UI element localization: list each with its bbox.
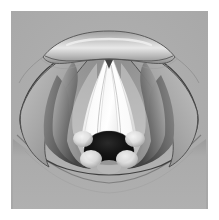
laryngoscopic-illustration-panel	[11, 11, 208, 209]
interarytenoid-notch	[97, 160, 121, 174]
cuneiform-tubercle-right	[125, 131, 145, 147]
larynx-illustration-svg	[11, 11, 208, 209]
figure-root	[0, 0, 219, 220]
cuneiform-tubercle-left	[73, 131, 93, 147]
